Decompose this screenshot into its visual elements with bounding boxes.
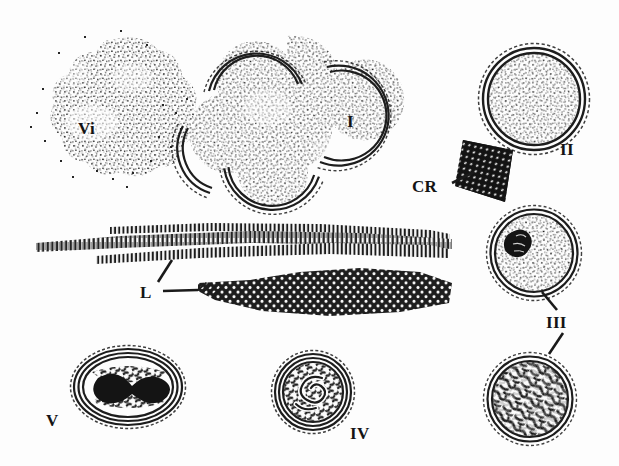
l-leader-to-strands — [158, 260, 172, 282]
lamella-sheet-lattice — [190, 262, 460, 322]
structure-vi: Vi — [30, 25, 200, 188]
label-three: III — [546, 313, 567, 332]
lobed-stipple-fill — [180, 25, 410, 215]
label-cr: CR — [412, 177, 438, 196]
structure-crystal: CR — [412, 134, 522, 210]
structure-one: I — [172, 25, 410, 221]
structure-three-upper — [487, 206, 582, 301]
circle-four-matrix — [284, 363, 342, 421]
structure-five: V — [46, 346, 186, 431]
vi-stipple-fill — [30, 25, 200, 185]
label-five: V — [46, 411, 59, 430]
inclusion-body-figure: Vi — [0, 0, 619, 466]
structure-two: II — [479, 44, 590, 160]
structure-lamellae-lower — [190, 262, 460, 322]
figure-canvas: Vi — [0, 0, 619, 466]
structure-lamellae-upper — [28, 215, 460, 270]
structure-three-lower — [484, 353, 577, 446]
label-two: II — [560, 140, 574, 159]
label-group-three: III — [542, 292, 567, 354]
structure-four: IV — [272, 351, 370, 444]
label-four: IV — [350, 424, 370, 443]
l-leader-to-sheet — [163, 290, 198, 291]
label-one: I — [347, 112, 354, 131]
ellipse-five-contents — [92, 366, 170, 408]
label-vi: Vi — [78, 119, 95, 138]
three-leader-down — [549, 333, 563, 354]
label-group-l: L — [140, 260, 198, 302]
label-l: L — [140, 283, 152, 302]
